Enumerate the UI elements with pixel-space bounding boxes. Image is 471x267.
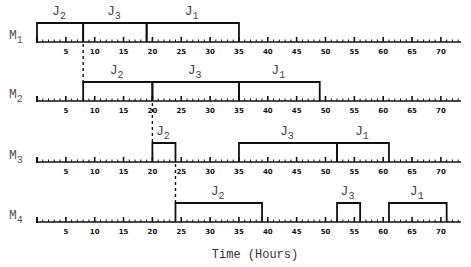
- job-block-J2: J2: [152, 124, 175, 162]
- machine-row-2: M2510152025303540455055606570J2J3J1: [9, 63, 461, 115]
- job-block-J3: J3: [152, 63, 239, 101]
- tick-label: 25: [176, 48, 186, 56]
- job-label: J2: [211, 184, 225, 202]
- job-label: J1: [271, 63, 285, 81]
- job-label: J3: [188, 63, 202, 81]
- tick-label: 50: [321, 48, 331, 56]
- tick-label: 35: [234, 107, 244, 115]
- job-box: [389, 203, 447, 222]
- job-box: [337, 203, 360, 222]
- job-box: [152, 82, 239, 101]
- job-label: J3: [280, 124, 294, 142]
- tick-label: 45: [292, 168, 302, 176]
- job-box: [147, 23, 239, 42]
- tick-label: 60: [378, 168, 388, 176]
- job-label: J2: [110, 63, 124, 81]
- tick-label: 15: [119, 228, 129, 236]
- tick-label: 60: [378, 107, 388, 115]
- tick-label: 10: [90, 168, 100, 176]
- tick-label: 25: [176, 168, 186, 176]
- x-axis-title: Time (Hours): [212, 248, 298, 262]
- machine-row-4: M4510152025303540455055606570J2J3J1: [9, 184, 461, 236]
- tick-label: 50: [321, 107, 331, 115]
- job-block-J1: J1: [147, 4, 239, 42]
- tick-label: 35: [234, 168, 244, 176]
- job-label: J1: [410, 184, 424, 202]
- job-block-J3: J3: [239, 124, 337, 162]
- tick-label: 40: [263, 107, 273, 115]
- tick-label: 5: [63, 107, 68, 115]
- machine-row-1: M1510152025303540455055606570J2J3J1: [9, 4, 461, 56]
- machine-label: M3: [9, 148, 23, 166]
- job-box: [337, 143, 389, 162]
- tick-label: 10: [90, 228, 100, 236]
- job-block-J2: J2: [83, 63, 152, 101]
- tick-label: 60: [378, 48, 388, 56]
- tick-label: 10: [90, 48, 100, 56]
- job-block-J1: J1: [337, 124, 389, 162]
- job-box: [239, 82, 320, 101]
- tick-label: 55: [349, 48, 359, 56]
- gantt-chart: M1510152025303540455055606570J2J3J1M2510…: [0, 0, 471, 267]
- tick-label: 30: [205, 168, 215, 176]
- tick-label: 55: [349, 168, 359, 176]
- machine-label: M4: [9, 208, 23, 226]
- job-block-J3: J3: [83, 4, 146, 42]
- tick-label: 65: [407, 48, 417, 56]
- tick-label: 70: [436, 48, 446, 56]
- machine-row-3: M3510152025303540455055606570J2J3J1: [9, 124, 461, 176]
- tick-label: 20: [148, 228, 158, 236]
- job-box: [175, 203, 262, 222]
- job-label: J2: [156, 124, 170, 142]
- job-block-J2: J2: [175, 184, 262, 222]
- tick-label: 35: [234, 48, 244, 56]
- tick-label: 55: [349, 107, 359, 115]
- tick-label: 5: [63, 228, 68, 236]
- tick-label: 5: [63, 48, 68, 56]
- job-block-J2: J2: [37, 4, 83, 42]
- tick-label: 40: [263, 168, 273, 176]
- tick-label: 35: [234, 228, 244, 236]
- tick-label: 60: [378, 228, 388, 236]
- machine-label: M1: [9, 28, 23, 46]
- job-block-J1: J1: [239, 63, 320, 101]
- machine-label: M2: [9, 87, 23, 105]
- tick-label: 50: [321, 168, 331, 176]
- job-box: [239, 143, 337, 162]
- tick-label: 15: [119, 48, 129, 56]
- job-box: [37, 23, 83, 42]
- tick-label: 25: [176, 228, 186, 236]
- tick-label: 70: [436, 168, 446, 176]
- tick-label: 20: [148, 168, 158, 176]
- tick-label: 30: [205, 228, 215, 236]
- tick-label: 40: [263, 228, 273, 236]
- tick-label: 45: [292, 48, 302, 56]
- job-box: [83, 82, 152, 101]
- tick-label: 15: [119, 168, 129, 176]
- tick-label: 70: [436, 228, 446, 236]
- tick-label: 15: [119, 107, 129, 115]
- tick-label: 20: [148, 48, 158, 56]
- tick-label: 10: [90, 107, 100, 115]
- tick-label: 55: [349, 228, 359, 236]
- tick-label: 5: [63, 168, 68, 176]
- tick-label: 65: [407, 107, 417, 115]
- job-label: J1: [185, 4, 199, 22]
- tick-label: 30: [205, 48, 215, 56]
- tick-label: 70: [436, 107, 446, 115]
- tick-label: 65: [407, 228, 417, 236]
- tick-label: 30: [205, 107, 215, 115]
- job-label: J3: [107, 4, 121, 22]
- tick-label: 50: [321, 228, 331, 236]
- job-label: J2: [52, 4, 66, 22]
- tick-label: 45: [292, 107, 302, 115]
- tick-label: 25: [176, 107, 186, 115]
- tick-label: 45: [292, 228, 302, 236]
- job-label: J1: [355, 124, 369, 142]
- job-block-J1: J1: [389, 184, 447, 222]
- tick-label: 40: [263, 48, 273, 56]
- job-box: [83, 23, 146, 42]
- job-block-J3: J3: [337, 184, 360, 222]
- job-label: J3: [341, 184, 355, 202]
- tick-label: 65: [407, 168, 417, 176]
